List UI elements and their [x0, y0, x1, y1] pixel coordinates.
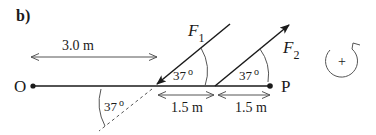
- origin-label: O: [14, 77, 26, 96]
- dimension-label-1-5m-a: 1.5 m: [171, 100, 203, 115]
- dimension-label-1-5m-b: 1.5 m: [235, 100, 267, 115]
- counterclockwise-positive-icon: +: [326, 43, 360, 77]
- plus-sign: +: [338, 54, 346, 69]
- f2-angle-label: 37o: [239, 66, 259, 83]
- origin-dot: [30, 83, 35, 88]
- part-label: b): [16, 7, 30, 25]
- pivot-label: P: [281, 77, 290, 96]
- torque-diagram: b) O P 3.0 m F1 37o F2 37o 1.5 m 1.5 m 3…: [0, 0, 376, 135]
- force-f1-label: F1: [187, 21, 204, 45]
- f2-angle-arc: [260, 49, 269, 82]
- pivot-dot: [267, 83, 273, 89]
- force-f2-label: F2: [282, 38, 299, 62]
- f1-angle-label: 37o: [173, 66, 193, 83]
- f1-angle-arc: [201, 48, 207, 86]
- force-f2-arrow: [215, 25, 289, 86]
- extension-angle-label: 37o: [104, 97, 124, 114]
- dimension-label-3m: 3.0 m: [62, 38, 94, 53]
